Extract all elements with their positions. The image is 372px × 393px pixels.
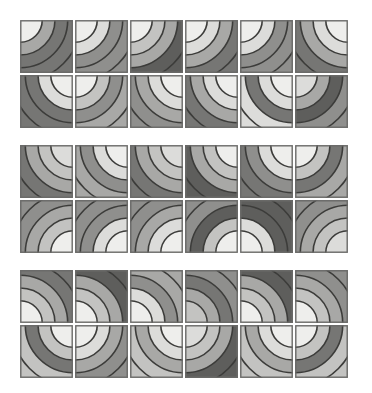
tile-r2-c1 xyxy=(75,145,128,198)
tile-r5-c5 xyxy=(295,325,348,378)
tile-r4-c5 xyxy=(295,270,348,323)
tile-r0-c1 xyxy=(75,20,128,73)
tile-r5-c3 xyxy=(185,325,238,378)
tile-r0-c0 xyxy=(20,20,73,73)
tile-r0-c3 xyxy=(185,20,238,73)
tile-r2-c4 xyxy=(240,145,293,198)
tile-r3-c1 xyxy=(75,200,128,253)
tile-r1-c5 xyxy=(295,75,348,128)
tile-r5-c4 xyxy=(240,325,293,378)
tile-r1-c0 xyxy=(20,75,73,128)
tile-r3-c3 xyxy=(185,200,238,253)
tile-r3-c0 xyxy=(20,200,73,253)
tile-r3-c5 xyxy=(295,200,348,253)
tile-grid xyxy=(0,0,372,393)
tile-r0-c4 xyxy=(240,20,293,73)
tile-r4-c1 xyxy=(75,270,128,323)
tile-r1-c3 xyxy=(185,75,238,128)
tile-r4-c3 xyxy=(185,270,238,323)
tile-r2-c5 xyxy=(295,145,348,198)
tile-r2-c3 xyxy=(185,145,238,198)
tile-r1-c1 xyxy=(75,75,128,128)
tile-r2-c2 xyxy=(130,145,183,198)
tile-r1-c2 xyxy=(130,75,183,128)
tile-r0-c2 xyxy=(130,20,183,73)
tile-r2-c0 xyxy=(20,145,73,198)
tile-r4-c4 xyxy=(240,270,293,323)
tile-r5-c2 xyxy=(130,325,183,378)
tile-r3-c2 xyxy=(130,200,183,253)
tile-r4-c0 xyxy=(20,270,73,323)
tile-r1-c4 xyxy=(240,75,293,128)
tile-r5-c0 xyxy=(20,325,73,378)
artboard xyxy=(0,0,372,393)
tile-r3-c4 xyxy=(240,200,293,253)
tile-r5-c1 xyxy=(75,325,128,378)
tile-r0-c5 xyxy=(295,20,348,73)
tile-r4-c2 xyxy=(130,270,183,323)
